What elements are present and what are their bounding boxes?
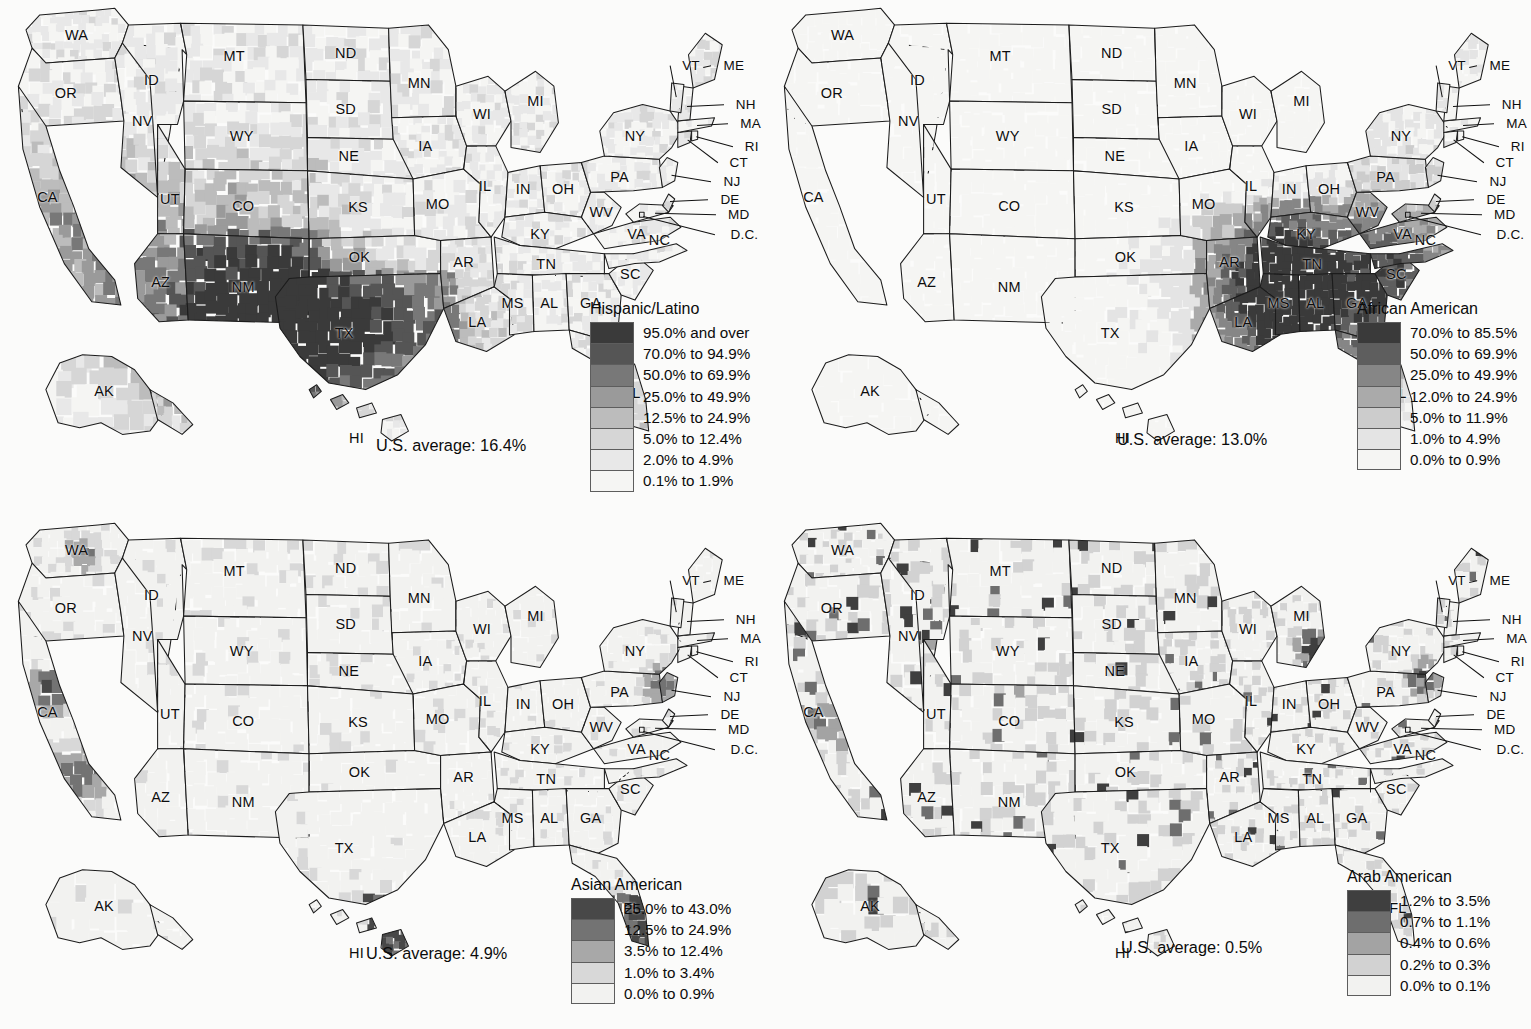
legend-label: 70.0% to 94.9% — [634, 343, 750, 364]
state-label-in: IN — [1282, 181, 1297, 197]
state-label-wy: WY — [230, 128, 254, 144]
state-label-in: IN — [1282, 696, 1297, 712]
state-region-TX — [273, 786, 461, 920]
state-label-pa: PA — [610, 169, 629, 185]
state-label-il: IL — [1245, 178, 1258, 194]
state-label-co: CO — [232, 713, 254, 729]
legend-swatch — [1347, 954, 1391, 975]
state-label-mn: MN — [1174, 590, 1197, 606]
legend-row: 5.0% to 12.4% — [590, 428, 750, 449]
state-label-ny: NY — [625, 643, 646, 659]
state-label-ar: AR — [1219, 769, 1240, 785]
state-label-ne: NE — [339, 663, 360, 679]
state-label-al: AL — [1306, 295, 1324, 311]
state-label-md: MD — [1494, 721, 1515, 736]
legend-swatch — [1357, 428, 1401, 449]
state-region-MI — [504, 585, 569, 680]
legend-swatch — [571, 898, 615, 919]
state-label-ut: UT — [160, 706, 180, 722]
state-label-nv: NV — [898, 113, 919, 129]
map-canvas: WAORCANVIDMTWYUTCOAZNMNDSDNEKSOKTXMNIAMO… — [766, 515, 1531, 1029]
state-label-ne: NE — [1105, 663, 1126, 679]
legend-swatch — [1347, 890, 1391, 911]
state-label-ms: MS — [501, 810, 523, 826]
state-label-wy: WY — [996, 128, 1020, 144]
legend-swatch — [590, 449, 634, 470]
legend-swatch — [1357, 449, 1401, 470]
state-label-nc: NC — [649, 747, 670, 763]
state-label-co: CO — [998, 198, 1020, 214]
state-label-ga: GA — [580, 810, 601, 826]
map-panel-hispanic-latino: WAORCANVIDMTWYUTCOAZNMNDSDNEKSOKTXMNIAMO… — [0, 0, 765, 514]
state-label-ok: OK — [1115, 764, 1136, 780]
legend-label: 50.0% to 69.9% — [1401, 343, 1517, 364]
state-label-me: ME — [723, 57, 744, 72]
state-label-ks: KS — [1114, 714, 1134, 730]
state-label-ny: NY — [1391, 643, 1412, 659]
legend-row: 12.5% to 24.9% — [571, 919, 731, 940]
state-label-ok: OK — [349, 764, 370, 780]
legend-row: 1.2% to 3.5% — [1347, 890, 1490, 911]
state-label-la: LA — [1234, 829, 1252, 845]
map-panel-african-american: WAORCANVIDMTWYUTCOAZNMNDSDNEKSOKTXMNIAMO… — [766, 0, 1531, 514]
state-label-ut: UT — [926, 191, 946, 207]
legend-row: 70.0% to 94.9% — [590, 343, 750, 364]
state-label-ny: NY — [1391, 128, 1412, 144]
state-label-wi: WI — [473, 621, 491, 637]
state-label-sc: SC — [1386, 781, 1407, 797]
state-label-ut: UT — [160, 191, 180, 207]
state-label-sd: SD — [1101, 616, 1122, 632]
state-label-or: OR — [821, 600, 843, 616]
state-label-wv: WV — [1355, 204, 1379, 220]
legend-label: 95.0% and over — [634, 322, 749, 343]
legend-label: 25.0% to 49.9% — [634, 386, 750, 407]
state-label-ak: AK — [860, 898, 880, 914]
state-label-nd: ND — [335, 45, 356, 61]
legend-swatch — [590, 322, 634, 343]
state-label-wi: WI — [1239, 106, 1257, 122]
legend-row: 50.0% to 69.9% — [590, 364, 750, 385]
state-label-ct: CT — [730, 670, 748, 685]
state-label-wi: WI — [1239, 621, 1257, 637]
state-region-TX — [1039, 786, 1227, 921]
state-label-ar: AR — [453, 254, 474, 270]
state-label-ia: IA — [418, 138, 432, 154]
legend-swatch — [571, 919, 615, 940]
legend-swatch — [1357, 364, 1401, 385]
legend-label: 25.0% to 49.9% — [1401, 364, 1517, 385]
state-label-sd: SD — [335, 101, 356, 117]
state-label-ri: RI — [745, 653, 759, 668]
legend-label: 5.0% to 12.4% — [634, 428, 742, 449]
legend-swatch — [590, 386, 634, 407]
state-label-nh: NH — [1502, 612, 1522, 627]
state-label-mo: MO — [426, 711, 450, 727]
state-label-wa: WA — [831, 542, 854, 558]
state-label-tx: TX — [335, 840, 354, 856]
state-label-ar: AR — [453, 769, 474, 785]
state-label-tn: TN — [536, 771, 556, 787]
state-label-sc: SC — [620, 781, 641, 797]
state-label-ca: CA — [37, 189, 58, 205]
legend: Arab American1.2% to 3.5%0.7% to 1.1%0.4… — [1347, 868, 1490, 996]
legend-label: 12.0% to 24.9% — [1401, 386, 1517, 407]
state-label-wy: WY — [230, 643, 254, 659]
state-label-az: AZ — [151, 789, 170, 805]
state-label-hi: HI — [349, 945, 364, 961]
state-label-ok: OK — [1115, 249, 1136, 265]
state-label-sc: SC — [1386, 266, 1407, 282]
state-label-ms: MS — [1267, 810, 1289, 826]
state-region-MI — [503, 69, 569, 163]
state-label-nv: NV — [132, 628, 153, 644]
us-average-label: U.S. average: 16.4% — [376, 436, 526, 455]
state-label-ia: IA — [1184, 653, 1198, 669]
state-label-hi: HI — [349, 430, 364, 446]
state-label-sc: SC — [620, 266, 641, 282]
state-label-az: AZ — [151, 274, 170, 290]
legend-row: 2.0% to 4.9% — [590, 449, 750, 470]
state-label-ne: NE — [1105, 148, 1126, 164]
state-region-CT — [677, 129, 703, 159]
state-label-va: VA — [1393, 226, 1412, 242]
state-label-tn: TN — [1302, 256, 1322, 272]
state-label-wa: WA — [65, 542, 88, 558]
state-label-id: ID — [910, 72, 925, 88]
